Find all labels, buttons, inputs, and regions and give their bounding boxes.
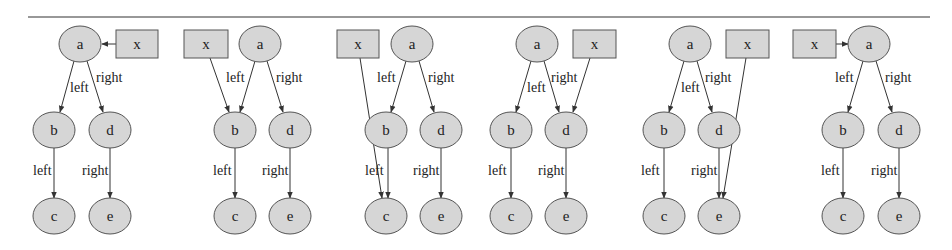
node-label: a <box>866 36 873 52</box>
node-x: x <box>573 30 616 58</box>
edge-label-right: right <box>551 70 578 85</box>
edge-label-right: right <box>691 163 718 178</box>
pointer-tree-diagram: leftrightleftrightaxbdceleftrightleftrig… <box>0 0 952 250</box>
edge-label-left: left <box>365 163 384 178</box>
node-label: a <box>77 36 84 52</box>
node-a: a <box>391 26 433 62</box>
node-label: d <box>562 122 570 138</box>
node-e: e <box>878 198 920 234</box>
node-e: e <box>698 198 740 234</box>
node-label: c <box>232 208 239 224</box>
node-d: d <box>545 112 587 148</box>
node-d: d <box>698 112 740 148</box>
node-label: d <box>106 122 114 138</box>
edge-label-left: left <box>821 163 840 178</box>
node-label: e <box>896 208 903 224</box>
node-label: d <box>286 122 294 138</box>
node-label: a <box>257 36 264 52</box>
edge-label-right: right <box>82 163 109 178</box>
edge-a-to-d <box>876 61 892 112</box>
edge-label-left: left <box>70 80 89 95</box>
edge-label-right: right <box>262 163 289 178</box>
panel-1: leftrightleftrightaxbdce <box>33 26 158 234</box>
node-a: a <box>848 26 890 62</box>
node-label: a <box>409 36 416 52</box>
node-label: d <box>895 122 903 138</box>
node-label: b <box>839 122 847 138</box>
node-x: x <box>184 30 228 58</box>
edge-label-left: left <box>33 163 52 178</box>
node-label: c <box>383 208 390 224</box>
node-x: x <box>726 30 769 58</box>
edge-label-right: right <box>871 163 898 178</box>
diagram-panels: leftrightleftrightaxbdceleftrightleftrig… <box>33 26 920 234</box>
node-label: c <box>508 208 515 224</box>
node-label: x <box>744 36 752 52</box>
edge-label-left: left <box>213 163 232 178</box>
edge-x-to-d <box>573 58 590 112</box>
node-b: b <box>214 112 256 148</box>
node-e: e <box>269 198 311 234</box>
node-label: b <box>660 122 668 138</box>
node-b: b <box>490 112 532 148</box>
node-b: b <box>643 112 685 148</box>
node-label: b <box>50 122 58 138</box>
node-label: x <box>202 36 210 52</box>
node-x: x <box>337 30 379 58</box>
node-label: c <box>840 208 847 224</box>
edge-label-left: left <box>835 70 854 85</box>
node-label: a <box>687 36 694 52</box>
node-label: b <box>382 122 390 138</box>
node-c: c <box>33 198 75 234</box>
node-c: c <box>365 198 407 234</box>
node-e: e <box>420 198 462 234</box>
edge-label-left: left <box>527 80 546 95</box>
edge-label-left: left <box>488 163 507 178</box>
node-label: e <box>563 208 570 224</box>
edge-a-to-b <box>240 61 255 112</box>
node-label: b <box>231 122 239 138</box>
node-d: d <box>89 112 131 148</box>
node-x: x <box>116 30 158 58</box>
node-b: b <box>33 112 75 148</box>
node-d: d <box>269 112 311 148</box>
node-b: b <box>822 112 864 148</box>
edge-a-to-d <box>544 61 559 112</box>
edge-label-right: right <box>428 70 455 85</box>
node-e: e <box>545 198 587 234</box>
node-a: a <box>669 26 711 62</box>
node-label: e <box>287 208 294 224</box>
node-label: d <box>715 122 723 138</box>
node-label: x <box>811 36 819 52</box>
edge-label-left: left <box>226 70 245 85</box>
node-d: d <box>420 112 462 148</box>
node-label: a <box>534 36 541 52</box>
edge-label-right: right <box>538 163 565 178</box>
edge-a-to-d <box>267 61 283 112</box>
edge-a-to-b <box>848 61 863 112</box>
node-c: c <box>214 198 256 234</box>
edge-a-to-d <box>87 61 103 112</box>
node-label: d <box>437 122 445 138</box>
panel-5: leftrightleftrightaxbdce <box>641 26 769 234</box>
node-label: x <box>354 36 362 52</box>
node-c: c <box>822 198 864 234</box>
node-label: x <box>591 36 599 52</box>
node-label: e <box>716 208 723 224</box>
node-c: c <box>490 198 532 234</box>
node-x: x <box>793 30 836 58</box>
panel-4: leftrightleftrightaxbdce <box>488 26 616 234</box>
node-a: a <box>59 26 101 62</box>
node-e: e <box>89 198 131 234</box>
node-a: a <box>516 26 558 62</box>
edge-label-right: right <box>96 70 123 85</box>
edge-a-to-d <box>419 61 434 112</box>
edge-label-right: right <box>885 70 912 85</box>
node-a: a <box>239 26 281 62</box>
edge-label-right: right <box>276 70 303 85</box>
node-b: b <box>365 112 407 148</box>
node-c: c <box>643 198 685 234</box>
edge-label-right: right <box>413 163 440 178</box>
panel-6: leftrightleftrightxabdce <box>793 26 920 234</box>
node-label: x <box>133 36 141 52</box>
